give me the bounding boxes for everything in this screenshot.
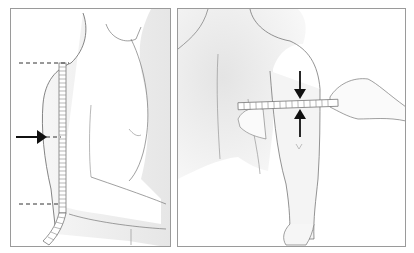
arm-outline bbox=[270, 71, 320, 239]
panel-left-arm-length bbox=[10, 8, 171, 247]
panel-right-arm-circumference bbox=[177, 8, 406, 247]
illustration-back-view bbox=[178, 9, 406, 247]
illustration-side-view bbox=[11, 9, 171, 247]
hand-holding-tape bbox=[330, 79, 406, 121]
